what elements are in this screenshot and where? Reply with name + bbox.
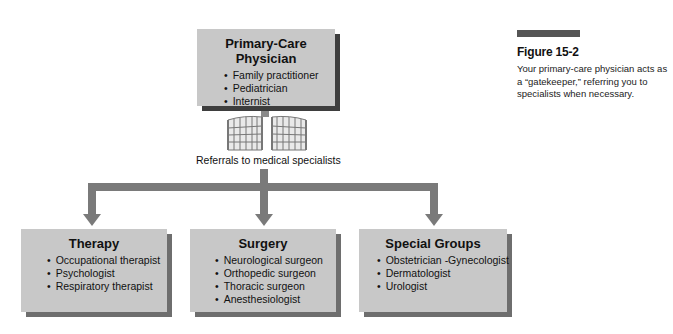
list-item: Pediatrician [224,82,335,95]
list-item: Urologist [377,280,507,293]
list-item: Family practitioner [224,69,335,82]
surgery-title: Surgery [190,236,336,251]
connector-left-drop [88,183,96,215]
list-item: Obstetrician -Gynecologist [377,254,507,267]
list-item: Internist [224,95,335,108]
primary-care-list: Family practitioner Pediatrician Interni… [224,69,335,108]
referral-label: Referrals to medical specialists [196,154,336,166]
special-groups-title: Special Groups [359,236,507,251]
figure-caption: Your primary-care physician acts as a “g… [517,63,673,101]
figure-title: Figure 15-2 [517,44,579,59]
surgery-box: Surgery Neurological surgeon Orthopedic … [190,229,336,312]
therapy-title: Therapy [21,236,167,251]
list-item: Psychologist [47,267,167,280]
primary-care-title: Primary-Care Physician [197,36,335,66]
connector-center-drop [260,183,268,215]
primary-care-box: Primary-Care Physician Family practition… [197,29,335,106]
gate-icon [226,112,308,152]
special-groups-list: Obstetrician -Gynecologist Dermatologist… [377,254,507,293]
therapy-box: Therapy Occupational therapist Psycholog… [21,229,167,312]
arrow-down-icon [425,214,443,226]
list-item: Orthopedic surgeon [215,267,336,280]
list-item: Neurological surgeon [215,254,336,267]
list-item: Thoracic surgeon [215,280,336,293]
arrow-down-icon [83,214,101,226]
list-item: Dermatologist [377,267,507,280]
list-item: Respiratory therapist [47,280,167,293]
surgery-list: Neurological surgeon Orthopedic surgeon … [215,254,336,306]
special-groups-box: Special Groups Obstetrician -Gynecologis… [359,229,507,312]
arrow-down-icon [255,214,273,226]
list-item: Anesthesiologist [215,293,336,306]
therapy-list: Occupational therapist Psychologist Resp… [47,254,167,293]
figure-accent-bar [517,30,580,37]
list-item: Occupational therapist [47,254,167,267]
connector-right-drop [430,183,438,215]
